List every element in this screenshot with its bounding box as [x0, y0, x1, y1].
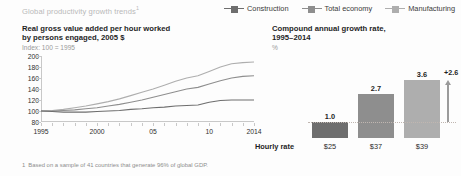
- line-chart-plot-area: [41, 56, 254, 122]
- legend-line-square-marker-icon: [224, 5, 244, 13]
- hourly-rate-value: $25: [324, 142, 336, 151]
- legend-item-label: Construction: [247, 4, 289, 13]
- bar-construction[interactable]: 1.0: [312, 122, 348, 138]
- line-chart-x-tick: [97, 123, 98, 126]
- line-chart-y-tick: [37, 78, 41, 79]
- line-series-manufacturing: [41, 62, 254, 111]
- line-chart-x-tick: [41, 123, 42, 126]
- bar-chart-plot-area: 1.02.73.6+2.6: [272, 70, 458, 138]
- line-chart-x-tick: [119, 123, 120, 126]
- line-series-total-economy: [41, 76, 254, 111]
- cagr-bar-chart: 1.02.73.6+2.6: [272, 56, 458, 138]
- legend-line-square-marker-icon: [302, 5, 322, 13]
- exhibit-root: Global productivity growth trends1 Const…: [0, 0, 461, 176]
- line-chart-x-tick: [108, 123, 109, 126]
- line-chart-x-tick-label: 10: [205, 128, 213, 135]
- right-panel-header: Compound annual growth rate, 1995–2014 %: [272, 24, 458, 52]
- line-chart-x-tick: [75, 123, 76, 126]
- exhibit-title-footnote-mark: 1: [136, 5, 139, 11]
- line-chart-x-tick: [176, 123, 177, 126]
- growth-gap-arrow-head-icon: [445, 80, 451, 85]
- right-panel-title: Compound annual growth rate, 1995–2014: [272, 24, 458, 43]
- line-chart-x-tick: [164, 123, 165, 126]
- footnote: 1Based on a sample of 41 countries that …: [22, 162, 208, 168]
- line-chart-x-tick-label: 2014: [246, 128, 261, 135]
- left-panel-title: Real gross value added per hour worked b…: [22, 24, 254, 43]
- bar-value-label: 1.0: [325, 112, 335, 121]
- line-chart-x-tick: [63, 123, 64, 126]
- hourly-rate-value: $39: [416, 142, 428, 151]
- line-chart-y-tick: [37, 100, 41, 101]
- line-chart-x-tick: [153, 123, 154, 126]
- right-panel-subtitle: %: [272, 44, 458, 52]
- hourly-rate-label: Hourly rate: [255, 142, 294, 151]
- bar-total-economy[interactable]: 2.7: [358, 94, 394, 138]
- line-chart-y-tick: [37, 67, 41, 68]
- line-chart-x-tick-label: 1995: [33, 128, 48, 135]
- line-chart-series-group: [41, 56, 254, 122]
- line-chart-x-tick: [131, 123, 132, 126]
- line-chart-x-tick: [52, 123, 53, 126]
- legend-item-total-economy[interactable]: Total economy: [302, 4, 373, 13]
- exhibit-title: Global productivity growth trends1: [22, 5, 139, 16]
- line-chart-y-tick: [37, 89, 41, 90]
- exhibit-title-text: Global productivity growth trends: [22, 7, 136, 16]
- line-chart-y-tick: [37, 111, 41, 112]
- right-panel-title-line2: 1995–2014: [272, 33, 458, 42]
- growth-gap-arrow-shaft-icon: [447, 84, 449, 122]
- left-panel-header: Real gross value added per hour worked b…: [22, 24, 254, 52]
- legend-item-label: Manufacturing: [408, 4, 455, 13]
- line-chart-x-tick: [254, 123, 255, 126]
- legend-line-square-marker-icon: [385, 5, 405, 13]
- line-chart-x-tick-label: 05: [149, 128, 157, 135]
- legend-item-label: Total economy: [325, 4, 373, 13]
- line-chart-x-tick: [198, 123, 199, 126]
- line-chart-x-tick: [187, 123, 188, 126]
- line-chart-x-tick: [209, 123, 210, 126]
- left-panel-subtitle: Index: 100 = 1995: [22, 44, 254, 52]
- line-chart-y-tick: [37, 56, 41, 57]
- bar-chart-reference-line: [308, 122, 456, 124]
- bar-manufacturing[interactable]: 3.6: [404, 80, 440, 138]
- productivity-index-line-chart: 200180160140120100801995200005102014: [22, 56, 254, 136]
- left-panel-title-line1: Real gross value added per hour worked: [22, 24, 254, 33]
- line-chart-x-tick-label: 2000: [89, 128, 104, 135]
- hourly-rate-row: Hourly rate $25$37$39: [255, 142, 461, 154]
- line-chart-x-tick: [220, 123, 221, 126]
- line-chart-x-tick: [86, 123, 87, 126]
- line-chart-x-tick: [232, 123, 233, 126]
- legend-item-construction[interactable]: Construction: [224, 4, 289, 13]
- footnote-text: Based on a sample of 41 countries that g…: [28, 162, 208, 168]
- hourly-rate-value: $37: [370, 142, 382, 151]
- left-panel-title-line2: by persons engaged, 2005 $: [22, 33, 254, 42]
- bar-value-label: 3.6: [417, 70, 427, 79]
- line-chart-x-tick: [243, 123, 244, 126]
- bar-value-label: 2.7: [371, 84, 381, 93]
- growth-gap-annotation: +2.6: [444, 68, 458, 77]
- chart-legend: ConstructionTotal economyManufacturing: [224, 4, 455, 13]
- right-panel-title-line1: Compound annual growth rate,: [272, 24, 458, 33]
- footnote-mark: 1: [22, 162, 25, 168]
- line-chart-x-tick: [142, 123, 143, 126]
- legend-item-manufacturing[interactable]: Manufacturing: [385, 4, 455, 13]
